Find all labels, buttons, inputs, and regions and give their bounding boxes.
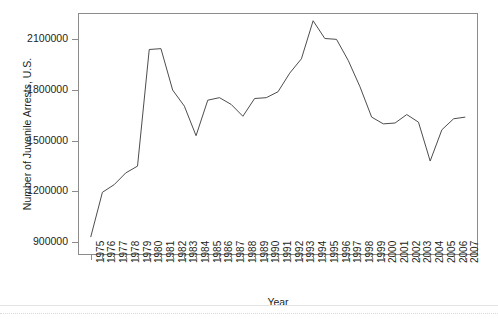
x-tick-mark [418, 255, 419, 260]
x-tick-mark [91, 255, 92, 260]
x-tick-label: 1976 [106, 241, 117, 263]
x-tick-label: 2005 [446, 241, 457, 263]
x-tick-mark [407, 255, 408, 260]
scan-artifact-rule-dotted [0, 313, 498, 314]
chart-figure: Number of Juvenile Arrests, U.S. 9000001… [0, 0, 498, 319]
x-tick-label: 2001 [399, 241, 410, 263]
x-tick-label: 2006 [458, 241, 469, 263]
x-tick-mark [102, 255, 103, 260]
x-tick-mark [184, 255, 185, 260]
x-tick-mark [325, 255, 326, 260]
x-tick-mark [173, 255, 174, 260]
x-tick-mark [383, 255, 384, 260]
x-tick-mark [313, 255, 314, 260]
x-tick-label: 1994 [317, 241, 328, 263]
x-tick-mark [395, 255, 396, 260]
x-tick-mark [465, 255, 466, 260]
x-tick-mark [196, 255, 197, 260]
x-tick-mark [126, 255, 127, 260]
x-tick-label: 2007 [469, 241, 480, 263]
y-tick-label: 1500000 [0, 134, 68, 146]
x-tick-mark [290, 255, 291, 260]
x-tick-label: 1980 [153, 241, 164, 263]
x-tick-label: 1996 [341, 241, 352, 263]
y-tick: 1500000 [0, 134, 68, 147]
y-tick: 1800000 [0, 83, 68, 96]
x-tick-label: 1999 [376, 241, 387, 263]
scan-artifact-rule [0, 305, 498, 306]
y-axis-ticks: 9000001200000150000018000002100000 [0, 0, 68, 319]
x-tick-mark [219, 255, 220, 260]
x-tick-mark [372, 255, 373, 260]
plot-area [78, 13, 478, 255]
x-tick-label: 1977 [118, 241, 129, 263]
x-tick-label: 1982 [177, 241, 188, 263]
x-tick-label: 1979 [142, 241, 153, 263]
x-tick-label: 1995 [329, 241, 340, 263]
x-tick-mark [337, 255, 338, 260]
y-tick-label: 900000 [0, 235, 68, 247]
x-tick-label: 2003 [422, 241, 433, 263]
x-tick-label: 1988 [247, 241, 258, 263]
x-tick-label: 2004 [434, 241, 445, 263]
x-tick-label: 1990 [270, 241, 281, 263]
x-tick-label: 1992 [294, 241, 305, 263]
y-tick-label: 1800000 [0, 83, 68, 95]
x-tick-mark [301, 255, 302, 260]
x-tick-label: 1989 [259, 241, 270, 263]
x-tick-mark [278, 255, 279, 260]
x-tick-mark [231, 255, 232, 260]
x-tick-mark [208, 255, 209, 260]
x-tick-label: 1997 [352, 241, 363, 263]
x-tick-label: 1987 [235, 241, 246, 263]
x-tick-mark [138, 255, 139, 260]
x-tick-mark [348, 255, 349, 260]
x-tick-mark [114, 255, 115, 260]
x-tick-mark [454, 255, 455, 260]
arrests-line-series [91, 21, 466, 237]
x-tick-label: 1975 [95, 241, 106, 263]
x-tick-label: 1981 [165, 241, 176, 263]
y-tick: 1200000 [0, 184, 68, 197]
x-tick-label: 1978 [130, 241, 141, 263]
x-tick-label: 1985 [212, 241, 223, 263]
x-tick-label: 1984 [200, 241, 211, 263]
x-tick-label: 1998 [364, 241, 375, 263]
y-tick-label: 2100000 [0, 32, 68, 44]
x-axis-title: Year [78, 296, 478, 308]
x-tick-mark [266, 255, 267, 260]
x-tick-mark [161, 255, 162, 260]
x-tick-mark [442, 255, 443, 260]
y-tick-label: 1200000 [0, 184, 68, 196]
x-tick-label: 1993 [305, 241, 316, 263]
x-tick-mark [255, 255, 256, 260]
data-line-svg [79, 14, 477, 254]
x-tick-mark [149, 255, 150, 260]
x-tick-mark [430, 255, 431, 260]
x-tick-mark [360, 255, 361, 260]
x-tick-label: 1983 [188, 241, 199, 263]
x-tick-label: 1986 [223, 241, 234, 263]
y-tick: 900000 [0, 235, 68, 248]
x-tick-label: 2002 [411, 241, 422, 263]
x-tick-mark [243, 255, 244, 260]
y-tick: 2100000 [0, 32, 68, 45]
x-tick-label: 2000 [387, 241, 398, 263]
x-tick-label: 1991 [282, 241, 293, 263]
